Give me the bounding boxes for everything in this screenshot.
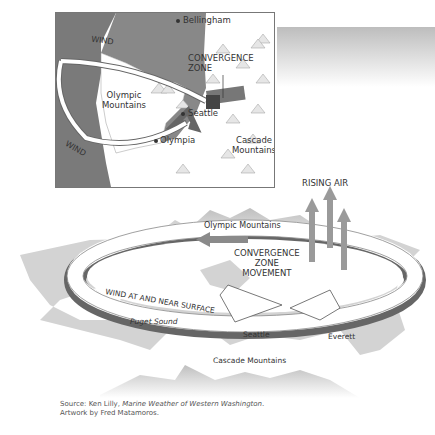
inset-olympic-label: Olympic Mountains — [102, 91, 146, 111]
main-diagram-graphic — [0, 180, 435, 400]
puget-sound-label: Puget Sound — [130, 318, 178, 326]
olympic-mountains-label: Olympic Mountains — [204, 222, 281, 231]
rising-air-label: RISING AIR — [302, 179, 348, 188]
cascade-mountains-label: Cascade Mountains — [213, 357, 286, 365]
background-gradient-panel — [277, 27, 435, 87]
bellingham-label: Bellingham — [183, 16, 231, 25]
inset-seattle-label: Seattle — [188, 109, 218, 118]
inset-map-graphic — [56, 13, 274, 187]
inset-cascade-label: Cascade Mountains — [232, 136, 275, 156]
inset-map: WIND WIND Bellingham CONVERGENCE ZONE Ol… — [55, 12, 275, 188]
seattle-dot — [181, 112, 185, 116]
bellingham-dot — [176, 19, 180, 23]
source-credit: Source: Ken Lilly, Marine Weather of Wes… — [60, 400, 264, 419]
convergence-zone-label: CONVERGENCE ZONE — [188, 54, 254, 74]
artwork-credit: Artwork by Fred Matamoros. — [60, 409, 264, 418]
everett-label: Everett — [328, 333, 355, 341]
olympia-label: Olympia — [160, 136, 195, 145]
convergence-zone-movement-label: CONVERGENCE ZONE MOVEMENT — [234, 249, 300, 278]
olympia-dot — [154, 139, 158, 143]
seattle-label: Seattle — [243, 331, 270, 339]
